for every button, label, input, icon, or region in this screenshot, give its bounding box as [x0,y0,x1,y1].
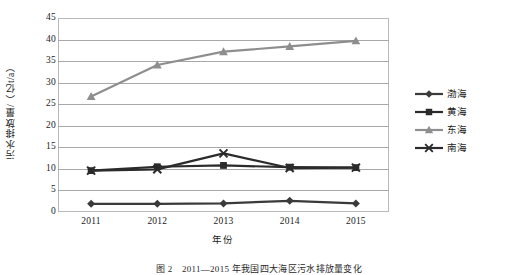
y-axis-tick-label: 40 [46,35,56,45]
x-axis-ticks: 20112012201320142015 [58,216,389,230]
legend-item[interactable]: 南海 [414,139,514,156]
legend-label: 东海 [444,125,468,135]
legend-marker-triangle [414,123,444,137]
y-axis-tick-label: 15 [46,143,56,153]
legend-marker-cross-x [414,141,444,155]
data-point-square [426,108,432,114]
x-axis-tick-label: 2012 [147,216,167,226]
plot-area [58,18,389,212]
legend-label: 南海 [444,143,468,153]
x-axis-title: 年份 [0,232,446,246]
x-axis-tick-label: 2011 [81,216,100,226]
legend-item[interactable]: 黄海 [414,103,514,120]
data-point-diamond [425,90,433,98]
y-axis-tick-label: 35 [46,56,56,66]
figure-caption: 图 2 2011—2015 年我国四大海区污水排放量变化 [0,262,518,275]
y-axis-tick-label: 10 [46,164,56,174]
y-axis-ticks: 454035302520151050 [26,18,56,212]
x-axis-tick-label: 2013 [214,216,234,226]
legend-marker-diamond [414,87,444,101]
x-axis-tick-label: 2014 [280,216,300,226]
legend-item[interactable]: 东海 [414,121,514,138]
y-axis-tick-label: 30 [46,78,56,88]
y-axis-tick-label: 20 [46,121,56,131]
series-layer [58,18,389,212]
data-point-diamond [87,200,95,208]
y-axis-tick-label: 45 [46,13,56,23]
data-point-diamond [286,197,294,205]
y-axis-tick-label: 0 [51,207,56,217]
data-point-diamond [153,200,161,208]
legend-label: 黄海 [444,107,468,117]
y-axis-tick-label: 25 [46,99,56,109]
y-axis-tick-label: 5 [51,186,56,196]
legend-marker-square [414,105,444,119]
legend-item[interactable]: 渤海 [414,85,514,102]
data-point-square [220,162,227,169]
data-point-diamond [352,199,360,207]
chart-legend: 渤海黄海东海南海 [414,85,514,157]
legend-label: 渤海 [444,89,468,99]
data-point-diamond [220,199,228,207]
x-axis-tick-label: 2015 [346,216,366,226]
y-axis-title: 污水排放量/（亿t/a） [6,62,20,159]
